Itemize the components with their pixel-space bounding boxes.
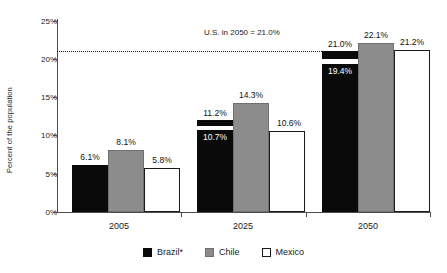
y-tick-label-5: 5% — [23, 170, 57, 179]
bar-label-2025-brazil-cap: 11.2% — [203, 108, 226, 118]
legend-item-brazil: Brazil* — [143, 247, 183, 257]
legend-label-brazil: Brazil* — [157, 247, 183, 257]
reference-line-label: U.S. in 2050 = 21.0% — [204, 28, 280, 37]
legend-item-mexico: Mexico — [262, 247, 305, 257]
y-tick-label-0: 0% — [23, 208, 57, 217]
bar-2005-brazil — [72, 165, 108, 212]
legend-label-chile: Chile — [219, 247, 240, 257]
x-axis-label-2050: 2050 — [358, 221, 378, 231]
x-tick-mark-2 — [306, 212, 307, 217]
chart-legend: Brazil* Chile Mexico — [0, 247, 447, 257]
bar-2050-brazil — [322, 64, 358, 212]
bar-2005-mexico — [144, 168, 180, 212]
bar-chart: Percent of the population 25% 20% 15% 10… — [0, 0, 447, 273]
y-tick-label-10: 10% — [23, 131, 57, 140]
bar-label-2005-mexico: 5.8% — [152, 155, 171, 165]
bar-2005-chile — [108, 150, 144, 212]
bar-2025-chile — [233, 103, 269, 212]
legend-swatch-brazil-icon — [143, 248, 152, 257]
bar-label-2050-brazil-cap: 21.0% — [328, 39, 352, 49]
y-tick-label-25: 25% — [23, 17, 57, 26]
legend-label-mexico: Mexico — [276, 247, 305, 257]
x-axis-line — [57, 212, 431, 213]
x-tick-mark-3 — [430, 212, 431, 217]
bar-2050-chile — [358, 43, 394, 212]
legend-swatch-chile-icon — [205, 248, 214, 257]
bar-2050-mexico — [394, 50, 430, 212]
bar-cap-2050-brazil — [322, 51, 358, 59]
x-axis-label-2025: 2025 — [233, 221, 253, 231]
y-tick-label-20: 20% — [23, 55, 57, 64]
x-tick-mark-1 — [181, 212, 182, 217]
y-axis-ticks: 25% 20% 15% 10% 5% 0% — [0, 0, 57, 273]
bar-label-2050-chile: 22.1% — [364, 30, 388, 40]
bar-label-2005-brazil: 6.1% — [80, 152, 99, 162]
bar-cap-2025-brazil — [197, 120, 233, 126]
y-axis-line — [57, 19, 58, 213]
bar-label-2025-mexico: 10.6% — [277, 118, 301, 128]
bar-label-2025-brazil: 10.7% — [203, 132, 227, 142]
legend-swatch-mexico-icon — [262, 248, 271, 257]
bar-2025-mexico — [269, 131, 305, 212]
y-tick-label-15: 15% — [23, 93, 57, 102]
bar-2025-brazil — [197, 130, 233, 212]
bar-label-2050-mexico: 21.2% — [400, 37, 424, 47]
bar-label-2050-brazil: 19.4% — [328, 66, 352, 76]
bar-label-2005-chile: 8.1% — [116, 137, 135, 147]
x-axis-label-2005: 2005 — [109, 221, 129, 231]
legend-item-chile: Chile — [205, 247, 240, 257]
bar-label-2025-chile: 14.3% — [239, 90, 263, 100]
